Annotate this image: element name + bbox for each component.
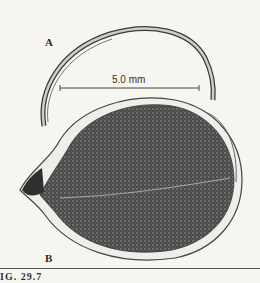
shell-drawing-b: [20, 98, 242, 260]
figure-caption: IG. 29.7: [0, 271, 42, 282]
panel-label-b: B: [45, 252, 52, 264]
scale-bar-label: 5.0 mm: [112, 74, 145, 85]
panel-label-a: A: [45, 36, 53, 48]
scale-bar: [60, 85, 199, 91]
caption-divider: [0, 268, 260, 269]
